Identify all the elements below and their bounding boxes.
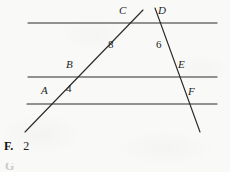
left-transversal-line <box>25 10 143 132</box>
segment-length-de: 6 <box>156 39 162 50</box>
point-label-e: E <box>178 59 185 70</box>
segment-length-ab: 4 <box>66 83 72 94</box>
right-transversal-line <box>155 8 200 132</box>
segment-length-bc: 8 <box>108 39 114 50</box>
point-label-c: C <box>119 5 126 16</box>
next-answer-choice-letter: G <box>5 163 17 172</box>
point-label-a: A <box>41 85 48 96</box>
answer-choice-value: 2 <box>23 140 29 152</box>
point-label-d: D <box>158 5 166 16</box>
scanned-test-question-page: A B C D E F 8 6 4 F. 2 G <box>0 0 230 172</box>
next-answer-choice-partial: G <box>5 163 17 172</box>
geometry-figure <box>0 0 230 172</box>
point-label-b: B <box>66 59 73 70</box>
answer-choice-f[interactable]: F. 2 <box>4 140 29 152</box>
answer-choice-letter: F. <box>4 140 13 152</box>
point-label-f: F <box>188 86 195 97</box>
